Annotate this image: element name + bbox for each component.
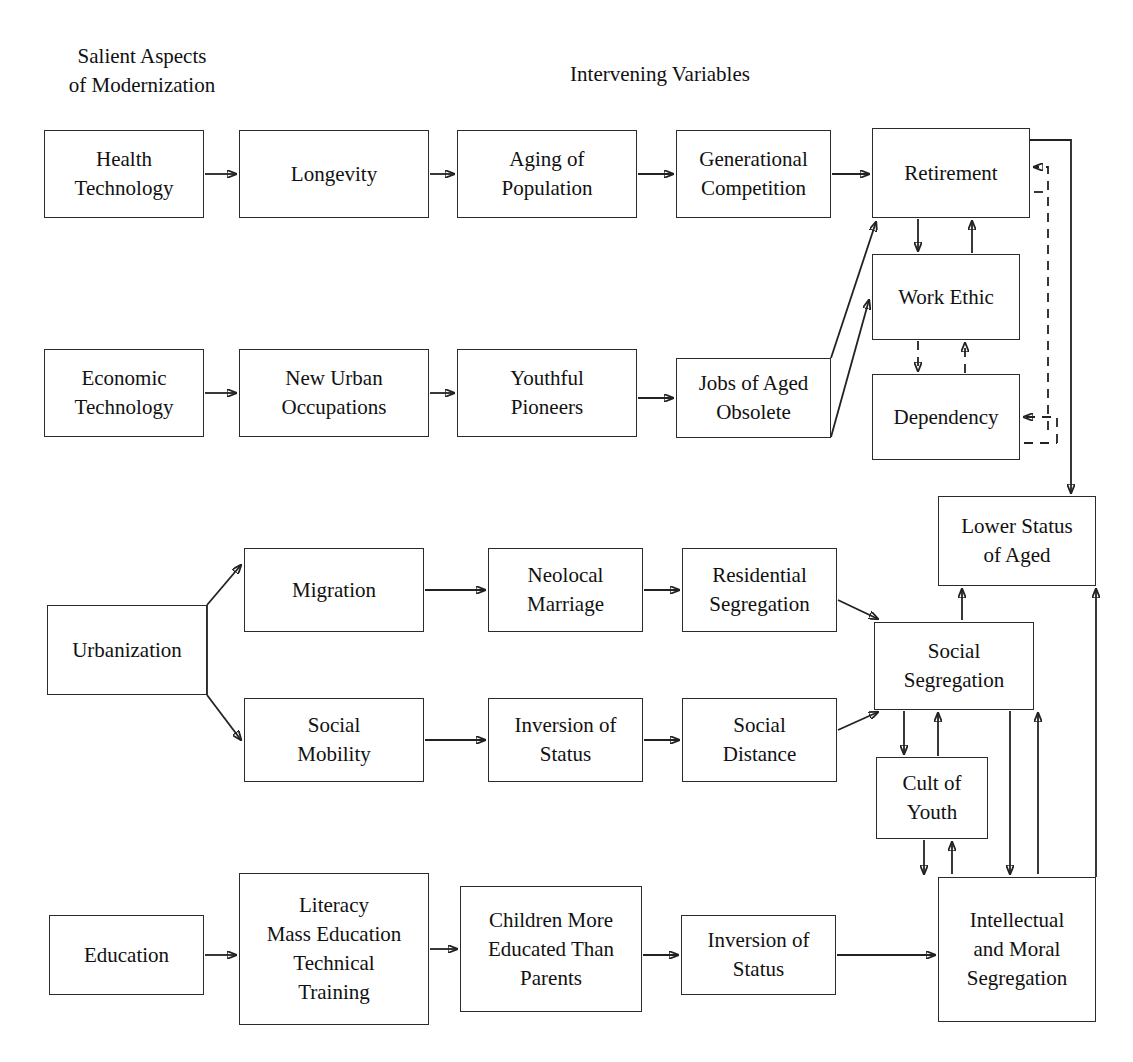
node-work-ethic[interactable]: Work Ethic [872,254,1020,340]
node-social-mobility[interactable]: Social Mobility [244,698,424,782]
node-generational-competition[interactable]: Generational Competition [676,130,831,218]
edge-jobs-to-retirement [831,222,876,358]
edge-urbanization-to-migration [207,565,241,605]
node-health-technology[interactable]: Health Technology [44,130,204,218]
node-aging-of-population[interactable]: Aging of Population [457,130,637,218]
edge-urbanization-to-socialmobility [207,695,241,740]
node-migration[interactable]: Migration [244,548,424,632]
node-jobs-of-aged-obsolete[interactable]: Jobs of Aged Obsolete [676,358,831,438]
node-social-segregation[interactable]: Social Segregation [874,622,1034,710]
edge-jobs-to-workethic [831,300,869,437]
node-literacy-mass-education[interactable]: Literacy Mass Education Technical Traini… [239,873,429,1025]
diagram-canvas: Salient Aspects of Modernization Interve… [0,0,1133,1062]
node-youthful-pioneers[interactable]: Youthful Pioneers [457,349,637,437]
edge-socialdistance-to-socialseg [838,712,878,730]
edge-lowerstatus-to-retirement [1034,167,1048,430]
edge-retirement-to-lowerstatus [1030,140,1071,493]
node-education[interactable]: Education [49,915,204,995]
edge-lowerstatus-to-dependency [1024,417,1057,443]
node-longevity[interactable]: Longevity [239,130,429,218]
node-cult-of-youth[interactable]: Cult of Youth [876,757,988,839]
node-neolocal-marriage[interactable]: Neolocal Marriage [488,548,643,632]
node-new-urban-occupations[interactable]: New Urban Occupations [239,349,429,437]
node-children-more-educated[interactable]: Children More Educated Than Parents [460,886,642,1012]
edge-residential-to-socialseg [838,600,878,619]
node-inversion-of-status-upper[interactable]: Inversion of Status [488,698,643,782]
node-economic-technology[interactable]: Economic Technology [44,349,204,437]
node-inversion-of-status-lower[interactable]: Inversion of Status [681,915,836,995]
node-dependency[interactable]: Dependency [872,374,1020,460]
node-intellectual-and-moral-segregation[interactable]: Intellectual and Moral Segregation [938,877,1096,1022]
node-urbanization[interactable]: Urbanization [47,605,207,695]
node-social-distance[interactable]: Social Distance [682,698,837,782]
node-retirement[interactable]: Retirement [872,128,1030,218]
node-residential-segregation[interactable]: Residential Segregation [682,548,837,632]
node-lower-status-of-aged[interactable]: Lower Status of Aged [938,496,1096,586]
